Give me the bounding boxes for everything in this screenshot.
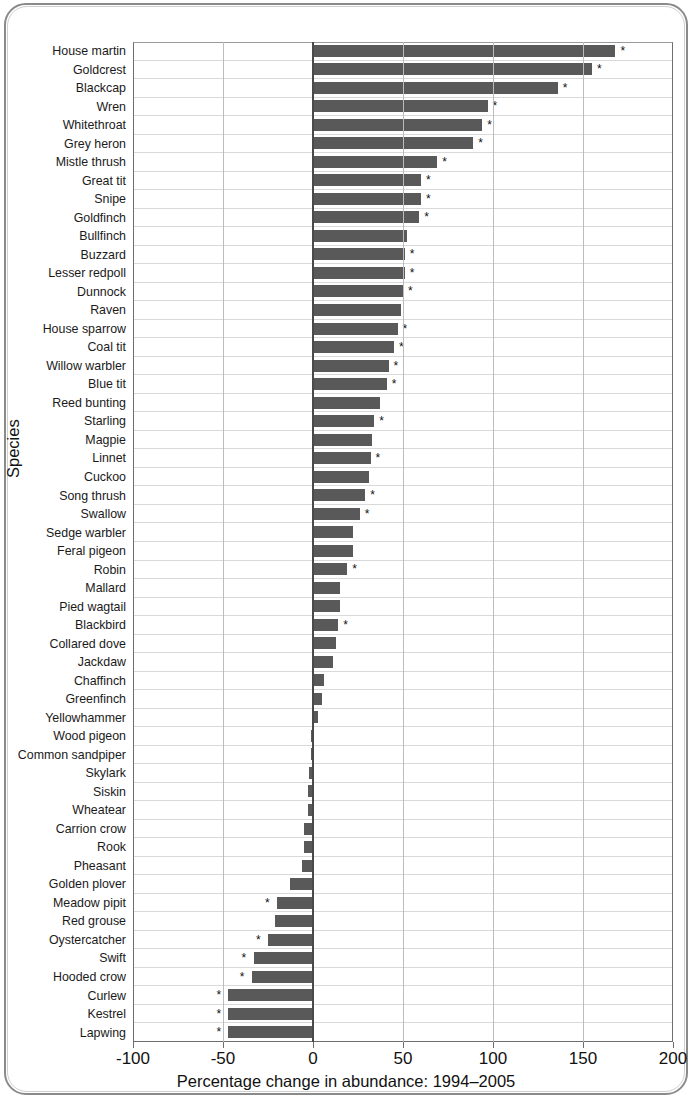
significance-marker: * [410, 267, 415, 279]
y-axis-tick-label: Rook [97, 841, 126, 853]
bar [313, 582, 340, 594]
x-axis-tick-mark [673, 1042, 674, 1048]
bar [313, 600, 340, 612]
x-axis-tick-mark [493, 1042, 494, 1048]
y-axis-tick-label: Blackbird [75, 619, 126, 631]
bar [277, 897, 313, 909]
y-axis-tick-label: Common sandpiper [18, 749, 126, 761]
significance-marker: * [216, 1007, 221, 1019]
y-axis-tick-label: Goldfinch [74, 212, 126, 224]
significance-marker: * [442, 156, 447, 168]
bar [313, 489, 365, 501]
bar [313, 693, 322, 705]
y-axis-tick-label: Lesser redpoll [48, 267, 126, 279]
y-axis-tick-label: House sparrow [43, 323, 126, 335]
significance-marker: * [265, 896, 270, 908]
bar [313, 341, 394, 353]
y-axis-tick-label: Robin [94, 564, 126, 576]
y-axis-tick-label: Whitethroat [63, 119, 126, 131]
x-axis-tick-label: -50 [211, 1049, 236, 1069]
bar [313, 156, 437, 168]
significance-marker: * [426, 174, 431, 186]
y-axis-tick-label: Oystercatcher [49, 934, 126, 946]
x-gridline [223, 42, 224, 1042]
significance-marker: * [478, 137, 483, 149]
bar [313, 137, 473, 149]
y-axis-tick-label: Buzzard [81, 249, 126, 261]
significance-marker: * [216, 1026, 221, 1038]
bar [268, 934, 313, 946]
significance-marker: * [216, 989, 221, 1001]
y-axis-tick-label: Grey heron [64, 138, 126, 150]
bar [275, 915, 313, 927]
x-axis-tick-label: 100 [479, 1049, 507, 1069]
bar [313, 63, 592, 75]
significance-marker: * [620, 45, 625, 57]
x-axis-tick-mark [583, 1042, 584, 1048]
bar [313, 545, 353, 557]
significance-marker: * [394, 359, 399, 371]
y-axis-tick-label: Greenfinch [65, 693, 126, 705]
y-axis-tick-label: Golden plover [49, 878, 126, 890]
y-axis-tick-label: Blue tit [88, 378, 126, 390]
y-axis-tick-label: Curlew [87, 990, 126, 1002]
y-axis-tick-label: Cuckoo [84, 471, 126, 483]
y-axis-tick-label: Hooded crow [53, 971, 126, 983]
significance-marker: * [343, 619, 348, 631]
y-axis-tick-label: Magpie [85, 434, 126, 446]
y-axis-title: Species [4, 419, 23, 478]
bar [228, 989, 313, 1001]
x-gridline [403, 42, 404, 1042]
y-axis-tick-label: Meadow pipit [53, 897, 126, 909]
significance-marker: * [426, 193, 431, 205]
y-axis-tick-label: Starling [84, 415, 126, 427]
significance-marker: * [597, 63, 602, 75]
y-axis-tick-label: Mallard [85, 582, 126, 594]
y-axis-tick-label: Collared dove [50, 638, 126, 650]
bar [313, 619, 338, 631]
y-axis-tick-label: Sedge warbler [46, 527, 126, 539]
bar [313, 193, 421, 205]
y-axis-tick-label: Wheatear [72, 804, 126, 816]
y-axis-tick-labels: House martinGoldcrestBlackcapWrenWhiteth… [0, 42, 131, 1042]
y-axis-tick-label: Lapwing [80, 1027, 126, 1039]
significance-marker: * [424, 211, 429, 223]
x-axis-tick-label: 50 [394, 1049, 413, 1069]
x-axis-tick-mark [313, 1042, 314, 1048]
bar [313, 174, 421, 186]
bar-chart: House martinGoldcrestBlackcapWrenWhiteth… [0, 0, 692, 1099]
bar [313, 230, 407, 242]
bar [254, 952, 313, 964]
bar [313, 378, 387, 390]
y-axis-tick-label: Kestrel [87, 1008, 126, 1020]
y-axis-tick-label: Raven [90, 304, 126, 316]
bar [313, 45, 615, 57]
y-axis-tick-label: Reed bunting [52, 397, 126, 409]
bar [313, 323, 398, 335]
x-axis-tick-label: -100 [116, 1049, 150, 1069]
y-axis-tick-label: Pheasant [74, 860, 126, 872]
bar [313, 508, 360, 520]
significance-marker: * [563, 82, 568, 94]
significance-marker: * [487, 119, 492, 131]
bar [313, 452, 371, 464]
bar [313, 267, 405, 279]
y-axis-tick-label: Skylark [85, 767, 126, 779]
y-axis-tick-label: Jackdaw [78, 656, 126, 668]
y-axis-tick-label: Linnet [92, 452, 126, 464]
y-axis-tick-label: Goldcrest [73, 64, 126, 76]
significance-marker: * [392, 378, 397, 390]
x-axis-tick-mark [223, 1042, 224, 1048]
y-axis-tick-label: Siskin [93, 786, 126, 798]
bar [252, 971, 313, 983]
significance-marker: * [370, 489, 375, 501]
bar [313, 360, 389, 372]
y-axis-tick-label: Feral pigeon [57, 545, 126, 557]
x-axis-tick-label: 200 [659, 1049, 687, 1069]
y-axis-tick-label: Yellowhammer [45, 712, 126, 724]
y-axis-tick-label: Mistle thrush [56, 156, 126, 168]
x-axis-tick-label: 150 [569, 1049, 597, 1069]
y-axis-tick-label: Swift [99, 952, 126, 964]
bar [313, 100, 488, 112]
bar [313, 82, 558, 94]
